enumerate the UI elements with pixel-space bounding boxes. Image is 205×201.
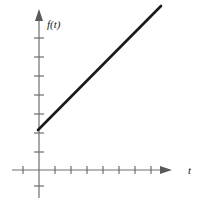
y-axis-arrow-icon	[35, 9, 43, 21]
x-axis-group	[12, 166, 172, 174]
plot-canvas: f(t) t	[0, 0, 205, 201]
x-axis-arrow-icon	[160, 166, 172, 174]
x-axis-label: t	[188, 164, 192, 176]
function-plot-figure: f(t) t	[0, 0, 205, 201]
y-axis-label: f(t)	[47, 18, 61, 31]
